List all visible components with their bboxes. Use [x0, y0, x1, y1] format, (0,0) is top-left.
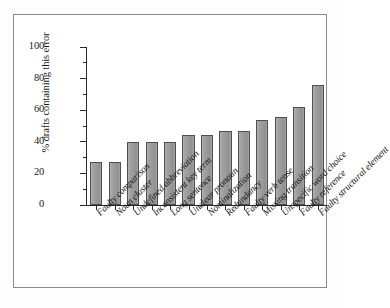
y-tick-label: 80 [4, 73, 44, 84]
y-tick-label: 0 [4, 199, 44, 210]
y-tick-minor [83, 157, 87, 158]
y-tick-mark [80, 141, 86, 142]
y-tick-label: 100 [4, 41, 44, 52]
y-tick-label: 20 [4, 167, 44, 178]
y-tick-minor [83, 126, 87, 127]
y-tick-mark [80, 205, 86, 206]
y-tick-label: 60 [4, 104, 44, 115]
bar [90, 162, 102, 205]
y-tick-minor [83, 189, 87, 190]
y-tick-mark [80, 173, 86, 174]
y-tick-minor [83, 94, 87, 95]
y-tick-mark [80, 78, 86, 79]
y-tick-label: 40 [4, 136, 44, 147]
y-axis-title: % drafts containing this error [40, 18, 51, 168]
y-tick-minor [83, 62, 87, 63]
y-tick-mark [80, 47, 86, 48]
figure-frame: 020406080100 % drafts containing this er… [13, 14, 327, 288]
y-tick-mark [80, 110, 86, 111]
